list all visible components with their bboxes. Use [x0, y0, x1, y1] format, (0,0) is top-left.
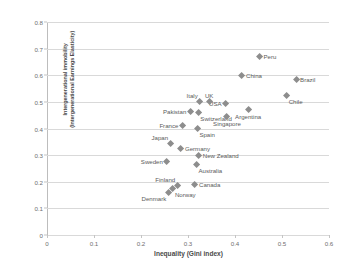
y-tick-label: 0.2: [34, 178, 43, 185]
data-point-label: Peru: [263, 53, 276, 60]
x-tick-label: 0.3: [184, 240, 193, 247]
gridline: [47, 155, 329, 156]
data-point-label: Argentina: [235, 113, 261, 120]
y-tick-label: 0.5: [34, 98, 43, 105]
y-axis-title: Intergenerational immobility (Intergener…: [62, 4, 77, 154]
data-point-marker: [292, 76, 299, 83]
data-point-label: Japan: [152, 134, 169, 141]
data-point-label: Singapore: [213, 120, 241, 127]
gridline: [47, 208, 329, 209]
data-point-label: Canada: [199, 181, 220, 188]
data-point-label: Chile: [289, 98, 303, 105]
y-tick-label: 0.6: [34, 72, 43, 79]
x-tick-mark: [329, 235, 330, 238]
y-tick-mark: [44, 155, 47, 156]
x-tick-label: 0.2: [137, 240, 146, 247]
data-point-label: China: [246, 72, 262, 79]
x-tick-mark: [235, 235, 236, 238]
data-point-label: Norway: [175, 191, 196, 198]
x-tick-mark: [282, 235, 283, 238]
y-tick-label: 0.3: [34, 152, 43, 159]
data-point-marker: [222, 100, 229, 107]
y-tick-label: 0.7: [34, 45, 43, 52]
data-point-label: Sweden: [141, 158, 163, 165]
gridline: [47, 102, 329, 103]
x-tick-mark: [47, 235, 48, 238]
x-tick-mark: [141, 235, 142, 238]
data-point-marker: [195, 151, 202, 158]
y-tick-label: 0.4: [34, 125, 43, 132]
y-tick-mark: [44, 48, 47, 49]
gridline: [47, 182, 329, 183]
data-point-marker: [163, 158, 170, 165]
data-point-label: Pakistan: [163, 108, 186, 115]
y-tick-mark: [44, 181, 47, 182]
data-point-label: Denmark: [142, 195, 167, 202]
scatter-chart-figure: 00.10.20.30.40.50.60.70.8 00.10.20.30.40…: [0, 0, 340, 268]
data-point-marker: [238, 72, 245, 79]
x-tick-label: 0: [45, 240, 48, 247]
y-tick-mark: [44, 208, 47, 209]
data-point-label: Finland: [155, 176, 175, 183]
y-tick-mark: [44, 128, 47, 129]
x-tick-label: 0.1: [90, 240, 99, 247]
data-point-label: Italy: [187, 92, 198, 99]
data-point-marker: [177, 145, 184, 152]
plot-area: 00.10.20.30.40.50.60.70.8 00.10.20.30.40…: [47, 22, 329, 235]
data-point-marker: [187, 108, 194, 115]
data-point-label: Australia: [198, 167, 222, 174]
data-point-label: France: [159, 122, 178, 129]
gridline: [47, 22, 329, 23]
gridline: [47, 129, 329, 130]
data-point-marker: [256, 53, 263, 60]
x-tick-label: 0.6: [325, 240, 334, 247]
data-point-label: UK: [205, 92, 213, 99]
y-tick-label: 0.1: [34, 205, 43, 212]
y-axis-title-line1: Intergenerational immobility: [62, 4, 69, 154]
data-point-label: New Zealand: [203, 152, 239, 159]
x-tick-label: 0.5: [278, 240, 287, 247]
x-axis-title: Inequality (Gini index): [47, 250, 330, 257]
y-axis-title-line2: (Intergenerational Earnings Elasticity): [69, 4, 76, 154]
data-point-label: Spain: [199, 131, 215, 138]
x-tick-label: 0.4: [231, 240, 240, 247]
gridline: [47, 75, 329, 76]
y-tick-mark: [44, 101, 47, 102]
gridline: [47, 49, 329, 50]
x-tick-mark: [188, 235, 189, 238]
y-tick-mark: [44, 75, 47, 76]
x-tick-mark: [94, 235, 95, 238]
y-tick-label: 0: [40, 232, 43, 239]
y-tick-label: 0.8: [34, 19, 43, 26]
y-tick-mark: [44, 22, 47, 23]
data-point-label: Brazil: [300, 76, 315, 83]
